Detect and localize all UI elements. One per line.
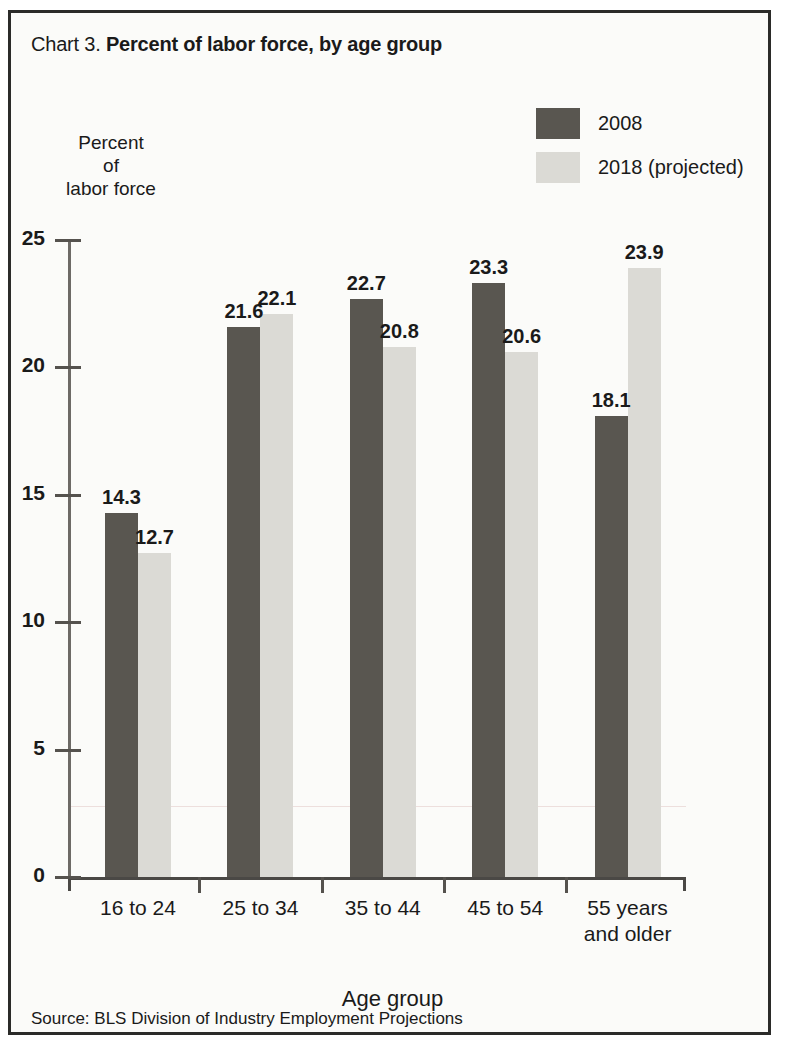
bar-value-label: 18.1 <box>583 389 640 412</box>
bar-value-label: 23.3 <box>460 256 517 279</box>
y-axis-title-line-1: Percent <box>41 131 181 154</box>
plot-area: 0510152025 14.312.721.622.122.720.823.32… <box>68 240 686 877</box>
bar-value-label: 20.8 <box>371 320 428 343</box>
bar-value-label: 14.3 <box>93 486 150 509</box>
bar-2018-projected--4 <box>628 268 661 877</box>
y-axis-tick-label: 0 <box>0 863 45 887</box>
chart-figure: Chart 3. Percent of labor force, by age … <box>8 10 771 1035</box>
legend-item-2018: 2018 (projected) <box>536 145 787 189</box>
y-axis-title-line-3: labor force <box>41 177 181 200</box>
y-axis-tick <box>55 621 81 624</box>
y-axis-title: Percent of labor force <box>41 131 181 200</box>
source-note: Source: BLS Division of Industry Employm… <box>31 1009 463 1029</box>
x-axis-tick <box>565 877 568 893</box>
x-axis-category-label: 55 years and older <box>555 895 701 947</box>
y-axis-tick-label: 10 <box>0 608 45 632</box>
y-axis-tick <box>55 239 81 242</box>
x-axis-left-cap <box>68 877 71 891</box>
chart-number: Chart 3. <box>31 33 101 55</box>
bar-2008-3 <box>472 283 505 877</box>
y-axis-tick <box>55 749 81 752</box>
y-axis-tick <box>55 494 81 497</box>
x-axis-tick <box>321 877 324 893</box>
legend-label-2008: 2008 <box>598 112 643 135</box>
bar-value-label: 22.7 <box>338 272 395 295</box>
bar-2008-2 <box>350 299 383 877</box>
page-title: Percent of labor force, by age group <box>106 33 442 55</box>
bar-2018-projected--2 <box>383 347 416 877</box>
legend-swatch-icon-2018 <box>536 152 580 183</box>
x-axis-right-cap <box>683 877 686 891</box>
bar-value-label: 23.9 <box>616 241 673 264</box>
y-axis-title-line-2: of <box>41 154 181 177</box>
y-axis-tick <box>55 366 81 369</box>
x-axis-line <box>68 877 686 880</box>
y-axis-tick-label: 20 <box>0 353 45 377</box>
y-axis-line <box>68 240 71 877</box>
y-axis-tick-label: 25 <box>0 226 45 250</box>
y-axis-tick <box>55 876 81 879</box>
chart-title-bar: Chart 3. Percent of labor force, by age … <box>31 33 731 56</box>
bar-2008-4 <box>595 416 628 877</box>
x-axis-tick <box>198 877 201 893</box>
legend-swatch-icon-2008 <box>536 108 580 139</box>
bar-2018-projected--0 <box>138 553 171 877</box>
bar-2018-projected--1 <box>260 314 293 877</box>
legend-label-2018: 2018 (projected) <box>598 156 744 179</box>
bar-2008-1 <box>227 327 260 877</box>
y-axis-tick-label: 15 <box>0 481 45 505</box>
legend-item-2008: 2008 <box>536 101 787 145</box>
chart-legend: 2008 2018 (projected) <box>536 101 787 189</box>
bar-2018-projected--3 <box>505 352 538 877</box>
x-axis-tick <box>443 877 446 893</box>
bar-value-label: 22.1 <box>248 287 305 310</box>
bar-2008-0 <box>105 513 138 877</box>
bar-value-label: 20.6 <box>493 325 550 348</box>
y-axis-tick-label: 5 <box>0 736 45 760</box>
bar-value-label: 12.7 <box>126 526 183 549</box>
